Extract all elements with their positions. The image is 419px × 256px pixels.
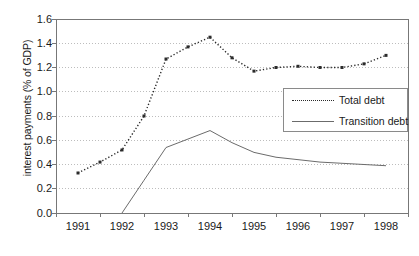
legend-swatch-dotted-icon	[290, 94, 336, 106]
legend-label-total-debt: Total debt	[339, 95, 385, 106]
chart-legend: Total debt Transition debt	[283, 88, 408, 132]
legend-swatch-solid-icon	[290, 115, 336, 127]
interest-payments-line-chart: interest payments (% of GDP) 0.00.20.40.…	[0, 0, 419, 256]
legend-item-total-debt: Total debt	[284, 89, 409, 111]
legend-item-transition-debt: Transition debt	[284, 110, 409, 132]
legend-label-transition-debt: Transition debt	[339, 116, 408, 127]
